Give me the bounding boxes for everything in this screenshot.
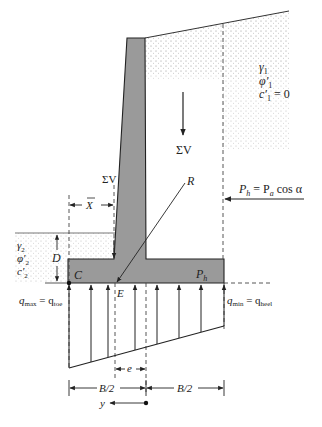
- b-half-right-label: B/2: [177, 382, 193, 394]
- ph-equation-label: Ph = Pa cos α: [238, 182, 303, 198]
- retaining-wall-diagram: γ1 φ′1 c′1 = 0 ΣV ΣV R Ph = Pa cos α X γ…: [0, 0, 322, 427]
- y-origin-dot: [144, 401, 148, 405]
- y-axis-label: y: [99, 397, 105, 409]
- eccentricity-label: e: [127, 362, 132, 374]
- depth-label: D: [51, 251, 61, 265]
- toe-c-label: C: [74, 268, 83, 282]
- sum-v-label: ΣV: [176, 143, 192, 157]
- b-half-left-label: B/2: [99, 382, 115, 394]
- qmin-label: qmin = qheel: [227, 294, 272, 308]
- soil-pressure-arrows: [69, 285, 224, 368]
- point-e-label: E: [116, 287, 124, 299]
- pressure-distribution-line: [69, 326, 224, 368]
- resultant-label: R: [186, 174, 195, 188]
- stem-sum-v-label: ΣV: [102, 173, 116, 185]
- qmax-label: qmax = qtoe: [19, 294, 62, 308]
- backfill-c-label: c′1 = 0: [259, 87, 290, 103]
- x-bar-label: X: [85, 199, 94, 211]
- toe-point-c: [67, 281, 71, 285]
